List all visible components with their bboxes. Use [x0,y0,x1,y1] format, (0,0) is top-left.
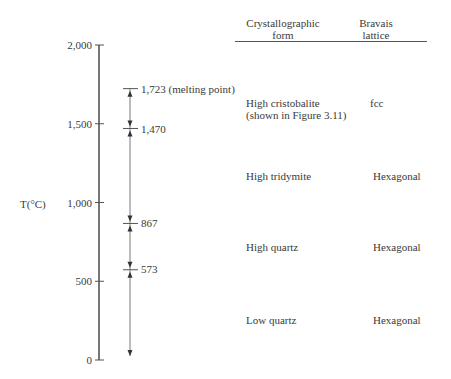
tick-label-1000: 1,000 [30,197,92,209]
header-rule [235,41,427,42]
header-form-line1: Crystallographic [238,17,328,29]
row-form-line1: Low quartz [246,314,296,326]
arrow-up-icon [128,91,133,97]
row-form-line1: High cristobalite [246,97,320,109]
tick-label-2000: 2,000 [30,39,92,51]
arrow-up-icon [128,130,133,136]
row-form-line1: High quartz [246,241,298,253]
transition-label-1470: 1,470 [141,123,166,135]
tick-label-1500: 1,500 [30,118,92,130]
row-lattice: Hexagonal [373,314,421,326]
row-lattice: Hexagonal [373,241,421,253]
row-form-line1: High tridymite [246,170,311,182]
transition-label-867: 867 [141,217,158,229]
transition-label-1723: 1,723 (melting point) [141,83,235,95]
row-lattice: fcc [370,97,383,109]
arrow-up-icon [128,225,133,231]
tick-label-500: 500 [30,275,92,287]
arrow-down-icon [128,120,133,126]
arrow-down-icon [128,262,133,268]
header-lattice-line2: lattice [350,29,402,41]
arrow-down-icon [128,350,133,356]
arrow-down-icon [128,215,133,221]
arrow-up-icon [128,272,133,278]
header-form-line2: form [238,29,328,41]
row-form-line2: (shown in Figure 3.11) [246,109,346,121]
header-lattice-line1: Bravais [350,17,402,29]
tick-label-0: 0 [30,354,92,366]
transition-label-573: 573 [141,263,158,275]
row-lattice: Hexagonal [373,170,421,182]
